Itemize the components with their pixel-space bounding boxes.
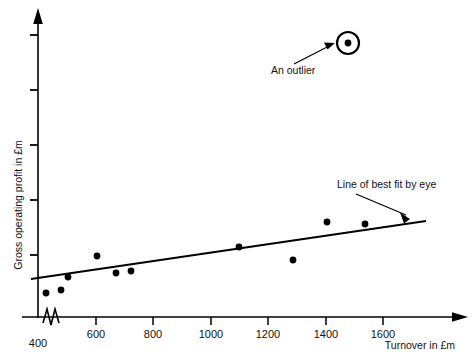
y-axis bbox=[30, 8, 43, 318]
data-point bbox=[324, 219, 331, 226]
x-axis-arrowhead bbox=[452, 312, 468, 322]
outlier-point bbox=[337, 32, 359, 54]
x-axis bbox=[22, 309, 468, 325]
data-point bbox=[65, 274, 72, 281]
outlier-annotation-label: An outlier bbox=[271, 64, 316, 76]
scatter-plot: 400 600 800 1000 1200 1400 1600 Turnover… bbox=[0, 0, 473, 357]
x-tick-label: 800 bbox=[144, 328, 162, 340]
x-tick-label: 600 bbox=[87, 328, 105, 340]
data-point bbox=[236, 244, 243, 251]
data-point bbox=[94, 253, 101, 260]
chart-canvas: 400 600 800 1000 1200 1400 1600 Turnover… bbox=[0, 0, 473, 357]
data-point bbox=[362, 221, 369, 228]
best-fit-annotation-label: Line of best fit by eye bbox=[337, 178, 436, 190]
data-point bbox=[58, 287, 65, 294]
outlier-arrowhead-icon bbox=[324, 43, 335, 50]
data-points-group bbox=[43, 219, 369, 297]
x-axis-title: Turnover in £m bbox=[385, 339, 455, 351]
x-tick-label: 1400 bbox=[314, 328, 338, 340]
data-point bbox=[290, 257, 297, 264]
best-fit-annotation: Line of best fit by eye bbox=[337, 178, 436, 224]
x-origin-tick-label: 400 bbox=[29, 337, 47, 349]
y-axis-title: Gross operating profit in £m bbox=[12, 140, 24, 270]
data-point bbox=[345, 40, 352, 47]
best-fit-line bbox=[31, 221, 426, 279]
x-tick-label: 1000 bbox=[199, 328, 223, 340]
data-point bbox=[43, 290, 50, 297]
outlier-annotation: An outlier bbox=[271, 43, 335, 77]
y-axis-arrowhead bbox=[33, 8, 43, 24]
x-tick-label: 1200 bbox=[256, 328, 280, 340]
data-point bbox=[128, 268, 135, 275]
best-fit-leader-line bbox=[356, 194, 406, 215]
data-point bbox=[113, 270, 120, 277]
outlier-leader-line bbox=[294, 45, 331, 64]
